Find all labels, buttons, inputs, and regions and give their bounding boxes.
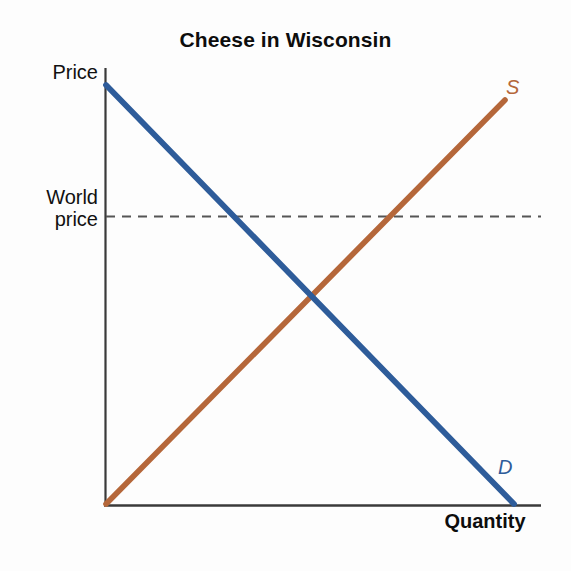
- world-price-label: Worldprice: [0, 186, 98, 231]
- y-axis-label: Price: [0, 61, 98, 83]
- demand-curve-label: D: [498, 456, 512, 478]
- chart-canvas: [0, 0, 571, 571]
- supply-curve: [106, 100, 505, 504]
- supply-curve-label: S: [506, 76, 519, 98]
- supply-demand-chart: Cheese in Wisconsin Price Worldprice Qua…: [0, 0, 571, 571]
- x-axis-label: Quantity: [420, 510, 550, 532]
- page-title: Cheese in Wisconsin: [0, 28, 571, 52]
